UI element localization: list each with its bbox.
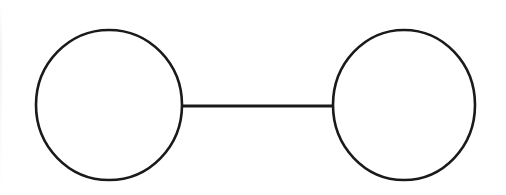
diagram-svg: [0, 0, 506, 195]
diagram-canvas: [0, 0, 506, 195]
diagram-background: [0, 0, 506, 195]
